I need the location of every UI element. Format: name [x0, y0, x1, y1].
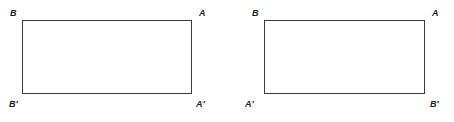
vertex-label-bottom-right: B′: [430, 100, 439, 109]
figure-original-rectangle: B A B′ A′: [0, 0, 227, 122]
figure-canvas: B A B′ A′ B A A′ B′: [0, 0, 454, 122]
vertex-label-top-left: B: [252, 9, 259, 18]
rectangle-outline: [22, 20, 192, 94]
vertex-label-bottom-left: B′: [9, 100, 18, 109]
vertex-label-top-left: B: [10, 9, 17, 18]
vertex-label-top-right: A: [199, 9, 206, 18]
figure-reflected-rectangle: B A A′ B′: [227, 0, 454, 122]
vertex-label-bottom-left: A′: [245, 100, 254, 109]
vertex-label-bottom-right: A′: [196, 100, 205, 109]
rectangle-outline: [264, 20, 425, 94]
vertex-label-top-right: A: [432, 9, 439, 18]
